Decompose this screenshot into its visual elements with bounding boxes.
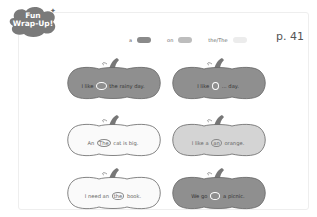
sentence-before: An [88,140,97,146]
pumpkin-icon [63,165,163,211]
legend-label-on: on [167,37,173,43]
circled-answer[interactable]: an [211,139,221,147]
badge-line2: Wrap-Up! [6,20,60,28]
pumpkin-icon [168,55,268,101]
legend-label-a: a [129,37,132,43]
circled-answer[interactable]: on [96,82,106,90]
sentence-before: I like a [192,140,211,146]
sentence-after: cat is big. [112,140,139,146]
pumpkin-sentence: I need an the book. [69,192,157,200]
sentence-after: ... day. [220,83,239,89]
color-legend: a on the/The [129,37,247,43]
pumpkin-sentence: We go on a picnic. [174,192,262,200]
pumpkin-sentence: I like on the rainy day. [69,82,157,90]
sentence-after: book. [125,193,141,199]
circled-answer[interactable]: a [212,82,219,90]
pumpkin-sentence-card: An The cat is big. [63,112,163,158]
page-number: p. 41 [276,30,304,43]
pumpkin-sentence: I like a ... day. [174,82,262,90]
pumpkin-sentence-card: I like a ... day. [168,55,268,101]
legend-label-the: the/The [208,37,227,43]
pumpkin-sentence: I like a an orange. [174,139,262,147]
sentence-before: I like [197,83,211,89]
sentence-after: the rainy day. [108,83,145,89]
circled-answer[interactable]: The [97,139,111,147]
legend-swatch-a [137,37,151,43]
pumpkin-sentence: An The cat is big. [69,139,157,147]
fun-wrap-up-badge: ✦ Fun Wrap-Up! [6,4,60,38]
pumpkin-icon [63,112,163,158]
sentence-after: orange. [223,140,245,146]
circled-answer[interactable]: on [210,192,220,200]
pumpkin-sentence-card: We go on a picnic. [168,165,268,211]
sentence-before: I like [81,83,95,89]
pumpkin-icon [168,165,268,211]
pumpkin-sentence-card: I like on the rainy day. [63,55,163,101]
sentence-before: We go [191,193,209,199]
legend-swatch-the [233,37,247,43]
circled-answer[interactable]: the [112,192,125,200]
sentence-before: I need an [85,193,111,199]
legend-swatch-on [178,37,192,43]
pumpkin-icon [168,112,268,158]
pumpkin-sentence-card: I need an the book. [63,165,163,211]
pumpkin-sentence-card: I like a an orange. [168,112,268,158]
pumpkin-icon [63,55,163,101]
sentence-after: a picnic. [221,193,244,199]
